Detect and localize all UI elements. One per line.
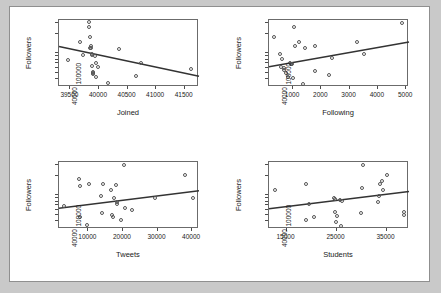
data-point xyxy=(273,188,277,192)
data-point xyxy=(376,200,380,204)
data-point xyxy=(297,40,301,44)
x-tick-label: 41000 xyxy=(146,91,164,98)
x-tick-mark xyxy=(127,86,128,89)
data-point xyxy=(335,214,339,218)
x-axis-title: Students xyxy=(268,250,408,259)
data-point xyxy=(93,54,97,58)
y-tick-mark xyxy=(265,55,268,56)
data-point xyxy=(313,44,317,48)
y-tick-mark xyxy=(55,22,58,23)
y-tick-mark xyxy=(55,59,58,60)
data-point xyxy=(111,215,115,219)
x-tick-label: 3000 xyxy=(341,91,355,98)
data-point xyxy=(89,44,93,48)
x-tick-label: 41500 xyxy=(175,91,193,98)
x-tick-label: 40000 xyxy=(89,91,107,98)
data-point xyxy=(381,188,385,192)
y-tick-label: 100000 xyxy=(75,205,82,227)
data-point xyxy=(66,58,70,62)
y-tick-mark xyxy=(265,220,268,221)
y-tick-mark xyxy=(55,204,58,205)
y-tick-mark xyxy=(265,164,268,165)
y-axis-title: Followers xyxy=(234,36,243,68)
x-tick-label: 2000 xyxy=(313,91,327,98)
data-point xyxy=(359,211,363,215)
y-tick-label: 100000 xyxy=(285,205,292,227)
data-point xyxy=(101,182,105,186)
y-tick-mark xyxy=(55,214,58,215)
y-tick-mark xyxy=(265,33,268,34)
data-point xyxy=(334,220,338,224)
x-tick-label: 4000 xyxy=(370,91,384,98)
data-point xyxy=(333,210,337,214)
data-point xyxy=(377,194,381,198)
y-tick-mark xyxy=(55,72,58,73)
y-tick-mark xyxy=(265,214,268,215)
data-point xyxy=(340,199,344,203)
y-tick-label: 40000 xyxy=(71,87,78,105)
data-point xyxy=(304,182,308,186)
y-tick-mark xyxy=(55,55,58,56)
data-point xyxy=(307,202,311,206)
x-tick-mark xyxy=(320,86,321,89)
data-point xyxy=(117,47,121,51)
x-axis-title: Following xyxy=(268,108,408,117)
y-axis-title: Followers xyxy=(24,36,33,68)
x-tick-label: 40500 xyxy=(118,91,136,98)
data-point xyxy=(301,82,305,86)
x-tick-mark xyxy=(184,86,185,89)
y-axis-title: Followers xyxy=(24,178,33,210)
x-tick-mark xyxy=(336,228,337,231)
data-point xyxy=(380,179,384,183)
data-point xyxy=(109,188,113,192)
y-tick-mark xyxy=(55,175,58,176)
data-point xyxy=(339,224,343,228)
x-tick-label: 30000 xyxy=(147,233,165,240)
data-point xyxy=(330,56,334,60)
data-point xyxy=(293,44,297,48)
data-point xyxy=(123,206,127,210)
y-tick-mark xyxy=(265,78,268,79)
y-tick-mark xyxy=(55,78,58,79)
data-point xyxy=(139,61,143,65)
y-tick-mark xyxy=(55,197,58,198)
data-point xyxy=(122,163,126,167)
y-tick-mark xyxy=(265,201,268,202)
data-point xyxy=(304,218,308,222)
screenshot-root: 395004000040500410004150040000100000Foll… xyxy=(0,0,441,293)
x-tick-label: 20000 xyxy=(113,233,131,240)
y-tick-mark xyxy=(55,33,58,34)
y-tick-mark xyxy=(265,209,268,210)
x-tick-label: 25000 xyxy=(326,233,344,240)
y-tick-mark xyxy=(55,209,58,210)
y-tick-mark xyxy=(265,175,268,176)
x-tick-mark xyxy=(157,228,158,231)
figure-canvas: 395004000040500410004150040000100000Foll… xyxy=(9,6,430,282)
y-tick-mark xyxy=(55,220,58,221)
x-axis-title: Joined xyxy=(58,108,198,117)
y-tick-mark xyxy=(55,164,58,165)
x-tick-label: 35000 xyxy=(376,233,394,240)
y-tick-mark xyxy=(265,197,268,198)
y-tick-mark xyxy=(55,62,58,63)
y-tick-label: 40000 xyxy=(281,229,288,247)
y-tick-mark xyxy=(55,67,58,68)
x-tick-mark xyxy=(87,228,88,231)
y-tick-mark xyxy=(265,67,268,68)
data-point xyxy=(85,223,89,227)
y-tick-mark xyxy=(55,194,58,195)
data-point xyxy=(78,40,82,44)
y-tick-mark xyxy=(265,62,268,63)
y-tick-label: 100000 xyxy=(285,63,292,85)
y-tick-mark xyxy=(265,204,268,205)
x-tick-mark xyxy=(405,86,406,89)
x-tick-mark xyxy=(386,228,387,231)
x-tick-mark xyxy=(292,86,293,89)
y-tick-label: 40000 xyxy=(71,229,78,247)
x-tick-mark xyxy=(349,86,350,89)
scatter-panel-tweets: 1000020000300004000040000100000Followers… xyxy=(10,144,220,281)
y-tick-mark xyxy=(265,194,268,195)
y-tick-label: 100000 xyxy=(75,63,82,85)
data-point xyxy=(115,202,119,206)
y-tick-mark xyxy=(265,59,268,60)
